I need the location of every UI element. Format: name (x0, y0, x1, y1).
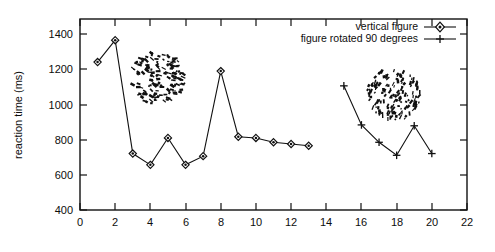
texture-dash (402, 70, 406, 74)
texture-dash (384, 94, 387, 98)
legend-label-vertical-figure: vertical figure (356, 20, 419, 32)
marker-center-dot (290, 143, 293, 146)
texture-dash (142, 92, 147, 95)
texture-dash (150, 102, 153, 104)
series-vertical-figure (94, 37, 312, 169)
x-tick-label-0: 0 (77, 216, 83, 228)
texture-dash (366, 88, 369, 91)
texture-dash (393, 85, 395, 88)
x-tick-label-4: 4 (147, 216, 153, 228)
texture-dash (406, 95, 408, 97)
texture-dash (149, 99, 154, 103)
texture-dash (167, 61, 169, 62)
texture-dash (407, 99, 410, 102)
x-tick-label-8: 8 (218, 216, 224, 228)
texture-dash (375, 111, 377, 113)
marker-center-dot (132, 152, 135, 155)
reaction-time-line-chart: 1400 1200 1000 800 600 400 reaction time… (0, 0, 495, 252)
data-point (147, 161, 154, 168)
texture-dash (404, 92, 406, 96)
texture-dash (412, 95, 413, 98)
texture-dash (172, 75, 177, 78)
texture-dash (400, 108, 402, 110)
texture-dash (159, 94, 163, 96)
texture-dash (371, 105, 374, 110)
texture-dash (172, 80, 175, 82)
texture-dash (384, 89, 386, 92)
texture-dash (411, 78, 413, 80)
texture-dash (141, 71, 146, 76)
texture-dash (387, 84, 389, 87)
x-tick-label-22: 22 (461, 216, 473, 228)
chart-figure: 1400 1200 1000 800 600 400 reaction time… (0, 0, 495, 252)
x-tick-label-2: 2 (112, 216, 118, 228)
data-point (252, 134, 259, 141)
texture-dash (166, 88, 171, 93)
texture-dash (150, 74, 153, 77)
texture-dash (177, 65, 179, 67)
data-point (200, 153, 207, 160)
texture-dash (416, 87, 419, 91)
texture-dash (136, 82, 140, 85)
data-point (287, 140, 294, 147)
texture-dash (155, 90, 158, 91)
texture-dash (412, 77, 414, 81)
texture-dash (137, 94, 139, 96)
texture-dash (412, 108, 415, 111)
texture-dash (378, 109, 381, 112)
texture-dash (172, 72, 174, 75)
texture-dash (370, 96, 373, 98)
texture-dash (162, 54, 166, 56)
texture-dash (405, 101, 408, 103)
texture-dash (388, 89, 392, 94)
texture-dash (393, 69, 395, 72)
texture-dash (179, 73, 181, 75)
texture-blob-rotated-icon (366, 69, 421, 121)
texture-dash (169, 73, 172, 75)
series-polyline (98, 40, 309, 165)
texture-dash (131, 67, 135, 71)
y-tick-group (80, 34, 467, 210)
texture-dash (374, 91, 376, 93)
y-tick-label-400: 400 (55, 204, 73, 216)
texture-dash (395, 115, 398, 118)
legend-marker-plus (424, 35, 456, 43)
data-point (164, 134, 171, 141)
texture-dash (400, 101, 403, 104)
x-tick-label-20: 20 (426, 216, 438, 228)
texture-dash (373, 75, 377, 79)
marker-center-dot (307, 145, 310, 148)
x-tick-label-10: 10 (250, 216, 262, 228)
y-tick-label-600: 600 (55, 169, 73, 181)
texture-dash (417, 94, 421, 99)
texture-dash (162, 99, 166, 102)
texture-dash (156, 61, 158, 63)
texture-dash (377, 106, 380, 109)
texture-dash (415, 96, 417, 98)
texture-dash (367, 84, 370, 88)
texture-dash (390, 96, 392, 99)
texture-dash (151, 71, 155, 74)
data-point (305, 142, 312, 149)
texture-dash (140, 95, 144, 99)
texture-dash (418, 101, 420, 103)
texture-dash (149, 94, 154, 99)
texture-dash (379, 111, 380, 115)
x-tick-label-14: 14 (320, 216, 332, 228)
marker-center-dot (167, 137, 170, 140)
texture-dash (378, 99, 380, 102)
texture-dash (161, 67, 166, 70)
texture-dash (177, 60, 180, 63)
marker-center-dot (219, 70, 222, 73)
texture-dash (382, 113, 383, 118)
texture-dash (150, 57, 154, 61)
data-point (235, 133, 242, 140)
texture-dash (154, 92, 157, 95)
texture-dash (150, 68, 152, 71)
texture-blob-vertical-icon (130, 51, 186, 105)
texture-dash (394, 118, 396, 120)
data-point (182, 161, 189, 168)
marker-center-dot (237, 135, 240, 138)
texture-dash (142, 100, 147, 103)
texture-dash (162, 58, 165, 61)
